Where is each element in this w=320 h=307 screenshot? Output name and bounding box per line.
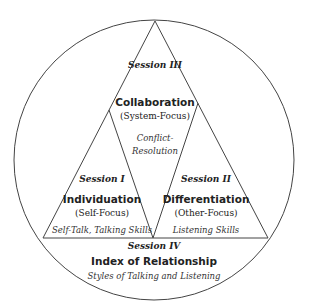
session-iii-focus: (System-Focus) [95, 112, 215, 121]
session-i-skills: Self-Talk, Talking Skills [42, 226, 162, 235]
session-i-focus: (Self-Focus) [42, 209, 162, 218]
session-ii-title: Differentiation [146, 194, 266, 205]
outer-triangle [43, 21, 268, 238]
session-iv-title: Index of Relationship [84, 256, 224, 267]
session-i-label: Session I [52, 175, 152, 184]
session-iv-label: Session IV [104, 242, 204, 251]
session-iii-title: Collaboration [95, 97, 215, 108]
session-ii-focus: (Other-Focus) [146, 209, 266, 218]
session-iv-skills: Styles of Talking and Listening [74, 272, 234, 281]
session-ii-skills: Listening Skills [146, 226, 266, 235]
session-i-title: Individuation [42, 194, 162, 205]
session-ii-label: Session II [156, 175, 256, 184]
session-iii-skills-2: Resolution [105, 147, 205, 156]
session-iii-skills-1: Conflict- [105, 134, 205, 143]
session-iii-label: Session III [105, 61, 205, 70]
